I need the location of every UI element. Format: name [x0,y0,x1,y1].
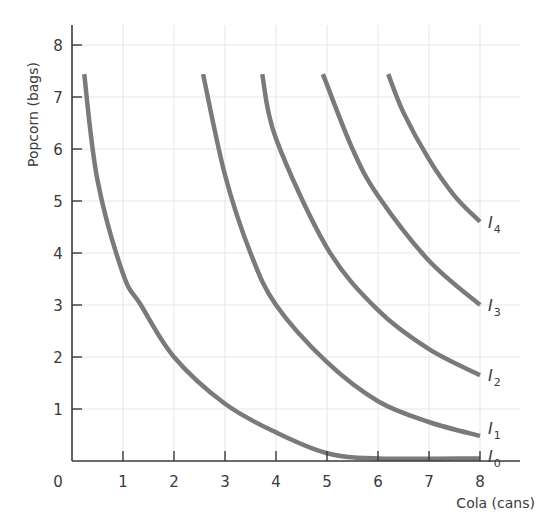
curve-labels: I0I1I2I3I4 [488,213,501,471]
y-tick-label: 5 [53,193,63,211]
y-tick-label: 6 [53,141,63,159]
indifference-curve-chart: 1234567812345678 0 Popcorn (bags) Cola (… [0,0,537,527]
axes [72,25,520,461]
x-tick-label: 2 [169,473,179,491]
y-tick-label: 4 [53,245,63,263]
y-axis-title: Popcorn (bags) [25,62,41,167]
curves [84,74,480,459]
x-tick-label: 8 [475,473,485,491]
x-tick-label: 4 [271,473,281,491]
grid-lines [72,25,520,461]
curve-label-i3: I3 [488,296,501,319]
x-tick-label: 7 [424,473,434,491]
curve-label-i1: I1 [488,419,501,442]
indifference-curve-i4 [388,74,480,222]
indifference-curve-i0 [84,74,480,459]
origin-label: 0 [53,473,63,491]
y-tick-label: 3 [53,297,63,315]
y-tick-label: 7 [53,89,63,107]
curve-label-i0: I0 [488,447,501,470]
x-axis-title: Cola (cans) [456,495,535,511]
curve-label-i2: I2 [488,366,501,389]
x-tick-label: 6 [373,473,383,491]
x-tick-label: 1 [118,473,128,491]
y-tick-label: 1 [53,401,63,419]
x-tick-label: 5 [322,473,332,491]
y-tick-label: 8 [53,37,63,55]
x-tick-label: 3 [220,473,230,491]
curve-label-i4: I4 [488,213,501,236]
y-tick-label: 2 [53,349,63,367]
